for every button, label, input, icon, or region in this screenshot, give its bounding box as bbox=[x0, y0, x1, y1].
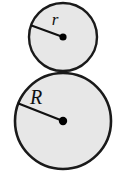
large-circle-group: R bbox=[15, 73, 111, 169]
small-circle-center-dot bbox=[59, 33, 66, 40]
large-circle-radius-label: R bbox=[29, 86, 42, 108]
small-circle-radius-label: r bbox=[52, 10, 59, 29]
geometry-figure: r R bbox=[0, 0, 121, 181]
figure-canvas: r R bbox=[0, 0, 121, 181]
large-circle-center-dot bbox=[59, 117, 67, 125]
small-circle-group: r bbox=[29, 3, 97, 71]
